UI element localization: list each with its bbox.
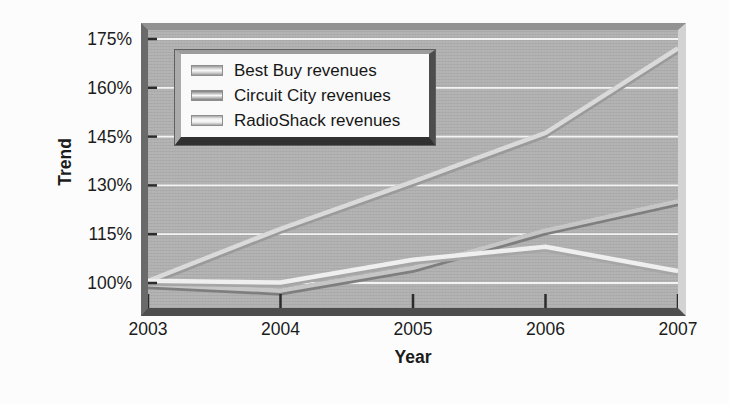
- y-tick-label: 130%: [64, 175, 132, 195]
- legend-item: RadioShack revenues: [191, 108, 423, 133]
- y-tick-label: 160%: [64, 78, 132, 98]
- legend: Best Buy revenues Circuit City revenues …: [175, 50, 435, 145]
- legend-label: RadioShack revenues: [234, 111, 400, 131]
- x-axis-title: Year: [363, 347, 463, 367]
- y-tick-label: 115%: [64, 224, 132, 244]
- x-tick-label: 2003: [112, 319, 184, 339]
- best-buy-line-swatch: [191, 65, 223, 76]
- radioshack-line-swatch: [191, 115, 223, 126]
- y-tick-label: 175%: [64, 29, 132, 49]
- x-tick-label: 2005: [377, 319, 449, 339]
- y-tick-label: 145%: [64, 127, 132, 147]
- plot-area: Best Buy revenues Circuit City revenues …: [141, 23, 686, 316]
- chart-figure: Trend 100%115%130%145%160%175% Best Buy …: [0, 0, 729, 404]
- x-tick-label: 2006: [510, 319, 582, 339]
- circuit-city-line-swatch: [191, 90, 223, 101]
- legend-label: Best Buy revenues: [234, 61, 377, 81]
- y-tick-label: 100%: [64, 273, 132, 293]
- legend-item: Best Buy revenues: [191, 58, 423, 83]
- series-line: [148, 201, 678, 290]
- x-tick-label: 2007: [642, 319, 714, 339]
- legend-item: Circuit City revenues: [191, 83, 423, 108]
- x-tick-label: 2004: [245, 319, 317, 339]
- legend-label: Circuit City revenues: [234, 86, 391, 106]
